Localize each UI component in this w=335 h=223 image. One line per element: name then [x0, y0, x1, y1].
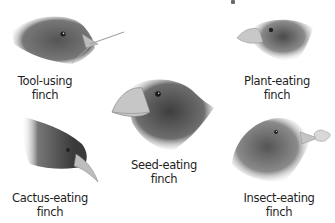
insect-eating-finch-label: Insect-eating finch: [236, 191, 322, 219]
cactus-eating-finch-label: Cactus-eating finch: [4, 191, 96, 219]
plant-eating-finch-label: Plant-eating finch: [237, 74, 317, 102]
insect-eating-finch-head-illustration: [222, 112, 335, 188]
tool-using-finch-label: Tool-using finch: [10, 74, 80, 102]
seed-eating-finch-head-illustration: [108, 72, 220, 154]
finch-insect-eating: Insect-eating finch: [222, 112, 335, 223]
cactus-eating-finch-head-illustration: [0, 112, 110, 188]
finch-plant-eating: Plant-eating finch: [225, 0, 335, 105]
seed-eating-finch-label: Seed-eating finch: [124, 158, 204, 186]
finch-cactus-eating: Cactus-eating finch: [0, 112, 110, 223]
plant-eating-finch-head-illustration: [225, 0, 335, 70]
tool-using-finch-head-illustration: [0, 0, 130, 70]
finch-seed-eating: Seed-eating finch: [108, 72, 220, 185]
